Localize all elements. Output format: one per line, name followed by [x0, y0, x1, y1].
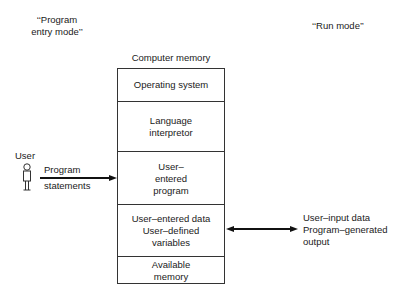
program-statements-line2: statements — [44, 180, 90, 192]
diagram-graphics — [0, 0, 409, 296]
program-statements-label: Program statements — [44, 164, 90, 192]
program-statements-line1: Program — [44, 164, 90, 176]
run-mode-bidirectional-arrow — [226, 226, 298, 232]
io-line2: Program–generated — [303, 224, 388, 236]
io-line3: output — [303, 236, 388, 248]
person-icon — [24, 164, 31, 190]
io-line1: User–input data — [303, 212, 388, 224]
run-mode-io-label: User–input data Program–generated output — [303, 212, 388, 248]
